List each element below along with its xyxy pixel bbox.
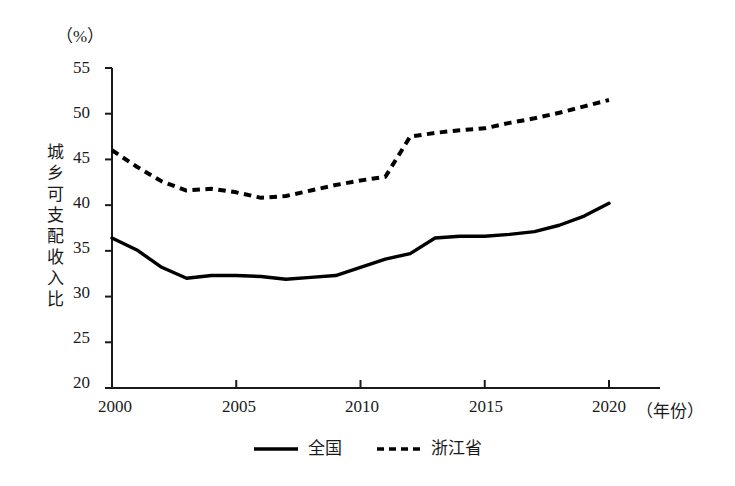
y-tick-label: 30 — [56, 283, 90, 303]
x-tick-label: 2000 — [98, 397, 132, 417]
y-tick-label: 25 — [56, 328, 90, 348]
y-axis-ticks — [105, 68, 112, 388]
y-tick-label: 55 — [56, 58, 90, 78]
legend: 全国 浙江省 — [0, 440, 735, 457]
y-tick-label: 20 — [56, 373, 90, 393]
y-tick-label: 40 — [56, 193, 90, 213]
series-line — [112, 100, 609, 198]
legend-item-zhejiang[interactable]: 浙江省 — [376, 440, 482, 457]
legend-label: 浙江省 — [431, 440, 482, 457]
x-axis-unit-label: （年份） — [636, 397, 704, 422]
series-line — [112, 203, 609, 279]
y-tick-label: 50 — [56, 103, 90, 123]
legend-swatch-solid-icon — [253, 444, 299, 454]
x-axis-ticks — [112, 380, 609, 388]
y-axis-unit-label: （%） — [56, 22, 104, 47]
legend-item-national[interactable]: 全国 — [253, 440, 342, 457]
chart-figure: （%） 城乡可支配收入比 55 50 45 40 35 30 25 20 200… — [0, 0, 735, 486]
x-tick-label: 2020 — [592, 397, 626, 417]
x-tick-label: 2010 — [345, 397, 379, 417]
x-tick-label: 2005 — [222, 397, 256, 417]
y-tick-label: 35 — [56, 238, 90, 258]
x-tick-label: 2015 — [469, 397, 503, 417]
legend-swatch-dashed-icon — [376, 444, 422, 454]
y-tick-label: 45 — [56, 148, 90, 168]
legend-label: 全国 — [308, 440, 342, 457]
data-series-group — [112, 100, 609, 279]
